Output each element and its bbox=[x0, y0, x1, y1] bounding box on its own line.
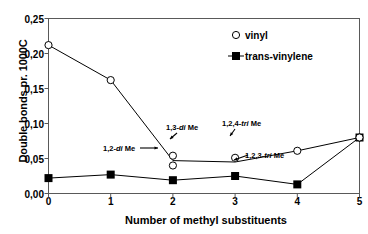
annotation-1-2-3-tri-me-post: Me bbox=[272, 151, 285, 160]
legend-item-trans-vinylene-label: trans-vinylene bbox=[245, 51, 313, 62]
annotation-1-3-di-me: 1,3-di Me bbox=[166, 123, 198, 132]
annotation-1-2-di-me-pre: 1,2- bbox=[103, 144, 116, 153]
annotation-1-2-di-me-post: Me bbox=[123, 144, 136, 153]
annotation-1-3-di-me-pre: 1,3- bbox=[166, 123, 179, 132]
plot-canvas bbox=[0, 0, 368, 234]
annotation-1-2-4-tri-me-italic: tri bbox=[241, 119, 249, 128]
annotation-1-2-3-tri-me-italic: tri bbox=[264, 151, 272, 160]
plot-frame bbox=[49, 19, 360, 194]
chart-figure: Double bonds pr. 1000C Number of methyl … bbox=[0, 0, 368, 234]
legend-item-vinyl-label: vinyl bbox=[245, 30, 268, 41]
annotation-1-2-4-tri-me: 1,2,4-tri Me bbox=[222, 119, 261, 128]
annotation-1-2-4-tri-me-post: Me bbox=[249, 119, 262, 128]
annotation-1-3-di-me-post: Me bbox=[186, 123, 199, 132]
annotation-1-2-3-tri-me: 1,2,3-tri Me bbox=[245, 151, 284, 160]
annotation-1-2-di-me-italic: di bbox=[116, 144, 123, 153]
annotation-1-2-di-me: 1,2-di Me bbox=[103, 144, 135, 153]
series-vinyl bbox=[45, 42, 363, 170]
axis-tick-marks bbox=[45, 19, 360, 198]
annotation-1-2-3-tri-me-pre: 1,2,3- bbox=[245, 151, 264, 160]
annotation-1-2-4-tri-me-pre: 1,2,4- bbox=[222, 119, 241, 128]
legend-markers bbox=[228, 31, 244, 60]
annotation-1-3-di-me-italic: di bbox=[179, 123, 186, 132]
